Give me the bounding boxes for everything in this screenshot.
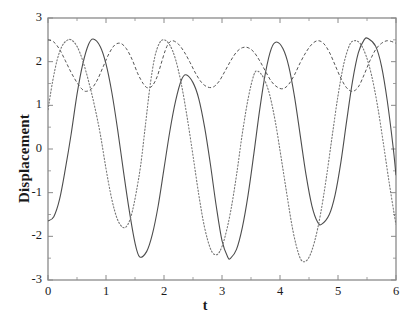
plot-canvas [0, 0, 410, 320]
x-tick-label: 1 [93, 284, 119, 299]
y-tick-label: -1 [16, 185, 42, 200]
x-axis-label: t [0, 298, 410, 314]
chart-figure: Displacement t 0123456-3-2-10123 [0, 0, 410, 320]
y-tick-label: 3 [16, 10, 42, 25]
x-tick-label: 5 [325, 284, 351, 299]
x-tick-label: 3 [209, 284, 235, 299]
series-dotted-curve [48, 39, 396, 261]
data-series-layer [48, 38, 396, 262]
x-tick-label: 2 [151, 284, 177, 299]
y-tick-label: -3 [16, 272, 42, 287]
x-tick-label: 4 [267, 284, 293, 299]
y-axis-label: Displacement [16, 99, 33, 219]
y-tick-label: 0 [16, 141, 42, 156]
y-tick-label: 1 [16, 97, 42, 112]
x-tick-label: 6 [383, 284, 409, 299]
series-solid-curve [48, 38, 396, 259]
y-tick-label: 2 [16, 54, 42, 69]
y-tick-label: -2 [16, 228, 42, 243]
